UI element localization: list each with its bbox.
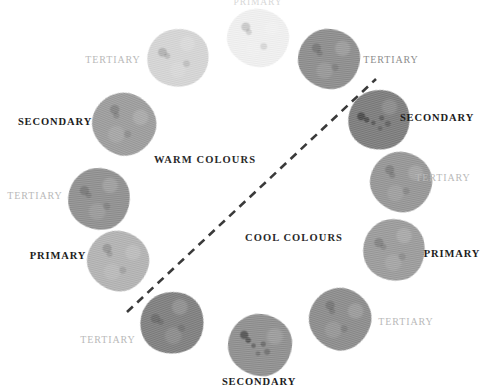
region-label-warm: WARM COLOURS <box>154 155 256 166</box>
swatch-texture <box>141 22 215 93</box>
swatch-texture <box>301 280 379 358</box>
colour-swatch-s08 <box>301 280 379 358</box>
swatch-label-s01: PRIMARY <box>233 0 282 8</box>
colour-swatch-s04 <box>65 165 133 233</box>
swatch-texture <box>131 283 212 363</box>
divider-dashed-line <box>127 79 376 312</box>
swatch-texture <box>225 311 294 378</box>
swatch-label-s03: SECONDARY <box>18 117 92 128</box>
region-label-cool: COOL COLOURS <box>245 233 343 244</box>
swatch-label-s08: TERTIARY <box>378 317 434 327</box>
swatch-texture <box>83 83 166 164</box>
swatch-texture <box>295 26 363 92</box>
swatch-label-s02: TERTIARY <box>85 55 141 65</box>
swatch-texture <box>223 5 292 71</box>
swatch-label-s05: PRIMARY <box>30 251 87 262</box>
swatch-label-s04: TERTIARY <box>7 191 63 201</box>
colour-swatch-s01 <box>223 5 292 71</box>
swatch-label-s10: TERTIARY <box>415 173 471 183</box>
swatch-label-s12: TERTIARY <box>363 55 419 65</box>
swatch-texture <box>81 224 156 297</box>
colour-swatch-s03 <box>83 83 166 164</box>
swatch-label-s11: SECONDARY <box>400 113 474 124</box>
swatch-texture <box>358 214 430 286</box>
colour-swatch-s12 <box>295 26 363 92</box>
colour-swatch-s05 <box>81 224 156 297</box>
colour-wheel-figure: PRIMARYTERTIARYSECONDARYTERTIARYPRIMARYT… <box>0 0 502 391</box>
swatch-label-s09: PRIMARY <box>424 249 481 260</box>
colour-swatch-s06 <box>131 283 212 363</box>
colour-swatch-s09 <box>358 214 430 286</box>
colour-swatch-s02 <box>141 22 215 93</box>
colour-swatch-s07 <box>225 311 294 378</box>
swatch-texture <box>65 165 133 233</box>
swatch-label-s06: TERTIARY <box>80 335 136 345</box>
swatch-label-s07: SECONDARY <box>222 377 296 388</box>
